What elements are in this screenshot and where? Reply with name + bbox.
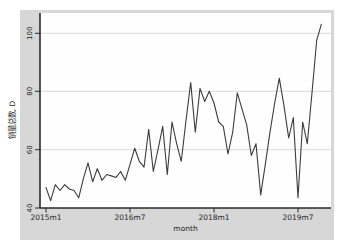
y-tick-label-80: 80	[26, 87, 34, 96]
y-tick-label-40: 40	[26, 204, 34, 213]
y-tick-label-60: 60	[26, 145, 34, 154]
x-tick-label-2019m7: 2019m7	[282, 213, 313, 222]
y-axis-title: 销量总数, D	[7, 101, 17, 140]
x-axis-title: month	[173, 224, 198, 233]
x-tick-label-2015m1: 2015m1	[30, 213, 61, 222]
chart-canvas: 40 60 80 100 2015m1 2016m7 2018m1 2019m7…	[0, 0, 337, 247]
y-tick-label-100: 100	[26, 27, 34, 40]
x-tick-label-2016m7: 2016m7	[114, 213, 145, 222]
stata-line-chart-screenshot: 40 60 80 100 2015m1 2016m7 2018m1 2019m7…	[0, 0, 337, 247]
x-tick-label-2018m1: 2018m1	[198, 213, 229, 222]
